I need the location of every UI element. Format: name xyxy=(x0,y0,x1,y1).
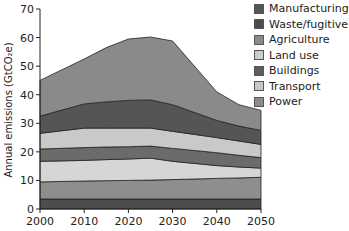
legend-label: Buildings xyxy=(269,64,319,77)
legend-swatch-icon xyxy=(254,50,264,60)
legend-label: Power xyxy=(269,95,302,108)
area-layer-1 xyxy=(40,199,261,209)
x-tick-label: 2000 xyxy=(26,215,54,228)
legend-item-power: Power xyxy=(254,94,349,110)
legend-swatch-icon xyxy=(254,19,264,29)
y-tick-label: 60 xyxy=(20,32,34,45)
y-tick-label: 20 xyxy=(20,146,34,159)
legend-label: Manufacturing xyxy=(269,2,349,15)
legend-item-transport: Transport xyxy=(254,79,349,95)
y-tick-label: 70 xyxy=(20,3,34,16)
legend-label: Land use xyxy=(269,49,319,62)
legend-item-agriculture: Agriculture xyxy=(254,32,349,48)
y-tick-label: 50 xyxy=(20,60,34,73)
legend-swatch-icon xyxy=(254,66,264,76)
legend: ManufacturingWaste/fugitiveAgricultureLa… xyxy=(254,1,349,110)
legend-label: Waste/fugitive xyxy=(269,18,348,31)
legend-swatch-icon xyxy=(254,81,264,91)
y-tick-label: 30 xyxy=(20,117,34,130)
legend-label: Transport xyxy=(269,80,321,93)
legend-label: Agriculture xyxy=(269,33,330,46)
legend-item-buildings: Buildings xyxy=(254,63,349,79)
y-tick-label: 40 xyxy=(20,89,34,102)
legend-swatch-icon xyxy=(254,97,264,107)
x-tick-label: 2010 xyxy=(70,215,98,228)
legend-item-waste-fugitive: Waste/fugitive xyxy=(254,17,349,33)
area-layers xyxy=(40,37,261,209)
x-tick-label: 2020 xyxy=(114,215,142,228)
legend-item-manufacturing: Manufacturing xyxy=(254,1,349,17)
legend-swatch-icon xyxy=(254,35,264,45)
legend-item-land-use: Land use xyxy=(254,48,349,64)
x-tick-label: 2030 xyxy=(159,215,187,228)
legend-swatch-icon xyxy=(254,4,264,14)
x-tick-label: 2050 xyxy=(247,215,275,228)
y-axis-title: Annual emissions (GtCO₂e) xyxy=(3,42,14,177)
y-tick-label: 10 xyxy=(20,174,34,187)
x-tick-label: 2040 xyxy=(203,215,231,228)
